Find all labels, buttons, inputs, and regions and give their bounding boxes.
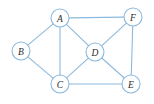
graph-node-c[interactable]: C bbox=[51, 75, 69, 93]
graph-node-label-e: E bbox=[127, 80, 134, 90]
graph-node-d[interactable]: D bbox=[86, 43, 104, 61]
graph-node-label-c: C bbox=[57, 80, 64, 90]
node-layer: ABCDEF bbox=[12, 8, 142, 93]
edge-layer bbox=[28, 17, 133, 84]
graph-edge-e-f bbox=[131, 26, 132, 75]
graph-figure: ABCDEF bbox=[0, 0, 154, 104]
graph-node-label-f: F bbox=[129, 13, 136, 23]
graph-edge-a-d bbox=[66, 24, 88, 45]
graph-edge-a-f bbox=[69, 17, 124, 18]
graph-node-f[interactable]: F bbox=[124, 8, 142, 26]
graph-edge-c-d bbox=[67, 58, 89, 78]
graph-edge-d-e bbox=[102, 58, 125, 78]
graph-edge-a-b bbox=[28, 24, 53, 45]
graph-edge-b-c bbox=[28, 57, 53, 78]
graph-canvas: ABCDEF bbox=[0, 0, 154, 104]
graph-node-a[interactable]: A bbox=[51, 9, 69, 27]
graph-node-b[interactable]: B bbox=[12, 42, 30, 60]
graph-node-label-b: B bbox=[18, 47, 24, 57]
graph-node-label-a: A bbox=[56, 14, 63, 24]
graph-node-label-d: D bbox=[91, 48, 99, 58]
graph-node-e[interactable]: E bbox=[122, 75, 140, 93]
graph-edge-d-f bbox=[102, 23, 127, 46]
